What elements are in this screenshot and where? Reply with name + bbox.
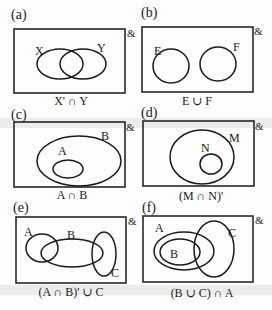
set-label-a: A	[155, 221, 164, 235]
set-expression-caption: (B ∪ C) ∩ A	[167, 286, 237, 301]
universal-set-symbol: &	[255, 214, 264, 226]
set-label-c: C	[228, 226, 236, 240]
venn-diagram-f: & A B C	[0, 0, 272, 310]
set-label-b: B	[170, 247, 178, 261]
